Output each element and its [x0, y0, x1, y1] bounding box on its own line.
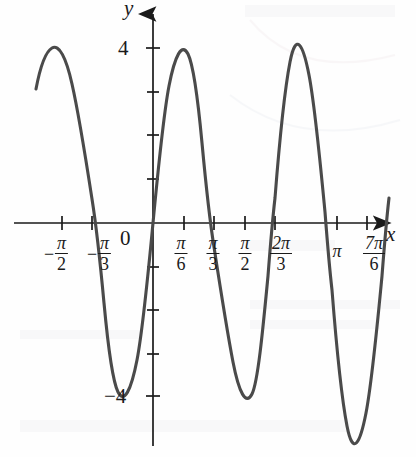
fraction-numerator: π — [174, 234, 187, 254]
x-tick-label-neg-pi-over-2: −π2 — [44, 234, 68, 273]
fraction-denominator: 2 — [55, 254, 68, 273]
fraction-numerator: π — [55, 234, 68, 254]
graph-plot — [0, 0, 416, 457]
fraction-denominator: 6 — [363, 254, 385, 273]
figure-container: y x 4 −4 0 −π2 −π3 π6 π3 π2 2π3 π 7π6 — [0, 0, 416, 457]
fraction: 2π3 — [270, 234, 292, 273]
x-tick-label-2pi-over-3: 2π3 — [270, 234, 292, 273]
fraction: π3 — [98, 234, 111, 273]
x-tick-label-pi-over-6: π6 — [174, 234, 187, 273]
x-tick-label-7pi-over-6: 7π6 — [363, 234, 385, 273]
fraction-denominator: 3 — [98, 254, 111, 273]
minus-sign: − — [44, 245, 55, 263]
x-axis-label: x — [386, 222, 395, 247]
x-tick-label-pi: π — [332, 234, 341, 260]
y-tick-label-4: 4 — [118, 36, 129, 61]
x-tick-label-pi-over-3: π3 — [206, 234, 219, 273]
fraction-numerator: 7π — [363, 234, 385, 254]
origin-label: 0 — [120, 226, 131, 251]
fraction: π3 — [206, 234, 219, 273]
fraction-numerator: π — [98, 234, 111, 254]
fraction: π2 — [55, 234, 68, 273]
fraction-denominator: 2 — [238, 254, 251, 273]
fraction-numerator: π — [206, 234, 219, 254]
fraction-denominator: 3 — [270, 254, 292, 273]
x-tick-label-neg-pi-over-3: −π3 — [87, 234, 111, 273]
y-tick-label-neg4: −4 — [104, 384, 126, 409]
fraction: π2 — [238, 234, 251, 273]
x-tick-label-pi-over-2: π2 — [238, 234, 251, 273]
minus-sign: − — [87, 245, 98, 263]
fraction: 7π6 — [363, 234, 385, 273]
y-axis-label: y — [124, 0, 133, 21]
pi-symbol: π — [332, 234, 341, 260]
fraction: π6 — [174, 234, 187, 273]
fraction-denominator: 3 — [206, 254, 219, 273]
fraction-denominator: 6 — [174, 254, 187, 273]
fraction-numerator: 2π — [270, 234, 292, 254]
fraction-numerator: π — [238, 234, 251, 254]
